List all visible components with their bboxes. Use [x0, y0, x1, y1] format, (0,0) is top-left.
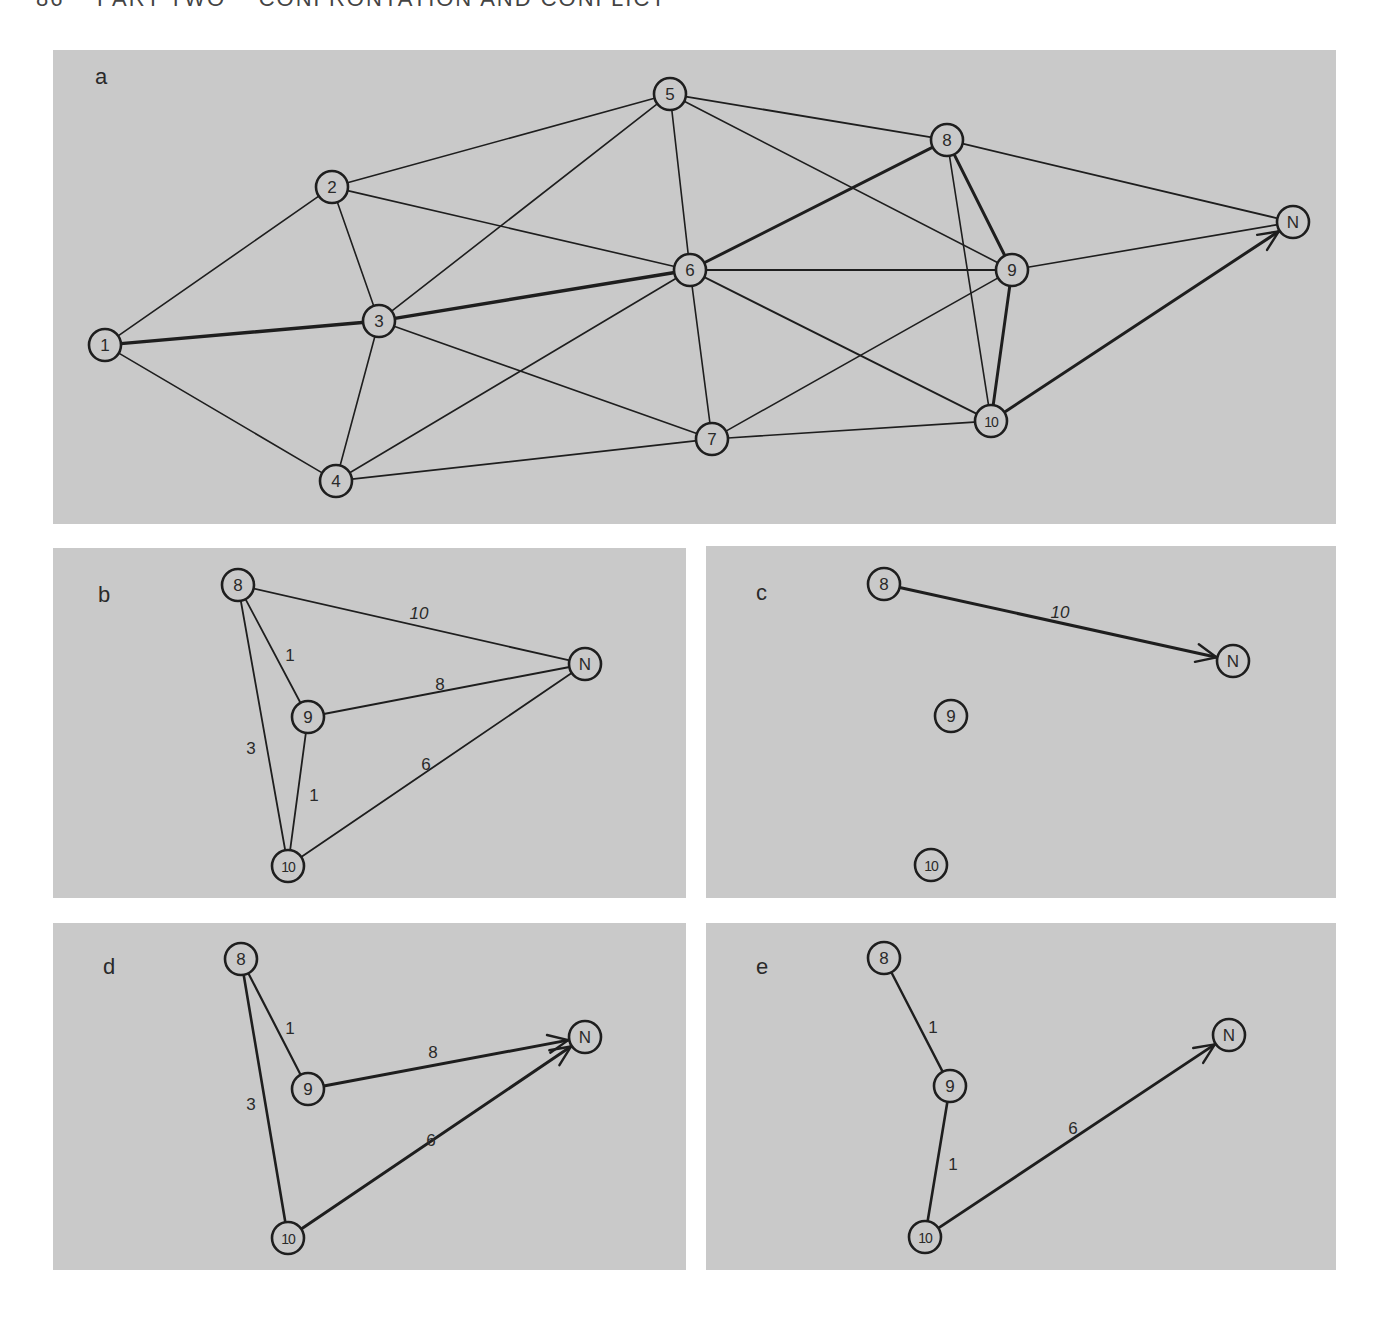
node-10: 10	[909, 1221, 941, 1253]
edge-weight-label: 8	[435, 675, 444, 694]
node-2: 2	[316, 171, 348, 203]
edge-2-6	[348, 191, 674, 267]
node-label: N	[1287, 213, 1299, 232]
panel-e-shortest-path-tree: e 1168910N	[706, 923, 1336, 1270]
node-label: 8	[879, 575, 888, 594]
node-label: N	[1227, 652, 1239, 671]
edge-9-10	[993, 286, 1009, 404]
edge-9-N	[1028, 225, 1276, 267]
edge-weight-label: 1	[309, 786, 318, 805]
node-N: N	[1277, 206, 1309, 238]
node-label: N	[579, 1028, 591, 1047]
node-8: 8	[225, 943, 257, 975]
panel-d-two-paths: d 13868910N	[53, 923, 686, 1270]
node-9: 9	[292, 1073, 324, 1105]
node-label: 8	[879, 949, 888, 968]
node-8: 8	[868, 942, 900, 974]
node-9: 9	[292, 701, 324, 733]
edge-9-10	[928, 1102, 948, 1220]
node-label: 4	[331, 472, 340, 491]
node-5: 5	[654, 78, 686, 110]
edge-5-8	[686, 97, 930, 138]
edge-6-10	[704, 277, 976, 413]
node-9: 9	[934, 1070, 966, 1102]
edge-9-N	[324, 667, 569, 714]
edge-4-6	[350, 279, 676, 473]
node-label: 2	[327, 178, 336, 197]
node-N: N	[569, 648, 601, 680]
edge-weight-label: 6	[426, 1131, 435, 1150]
node-9: 9	[935, 700, 967, 732]
edge-weight-label: 6	[421, 755, 430, 774]
network-graph-c: 108910N	[706, 546, 1336, 898]
node-8: 8	[931, 124, 963, 156]
node-6: 6	[674, 254, 706, 286]
node-1: 1	[89, 329, 121, 361]
node-label: 10	[281, 1231, 296, 1247]
edge-weight-label: 6	[1068, 1119, 1077, 1138]
node-4: 4	[320, 465, 352, 497]
node-8: 8	[222, 569, 254, 601]
edge-6-8	[704, 148, 932, 263]
edges: 116	[891, 972, 1215, 1228]
node-10: 10	[272, 1222, 304, 1254]
node-label: 9	[1007, 261, 1016, 280]
nodes: 8910N	[225, 943, 601, 1254]
edge-4-7	[352, 441, 695, 479]
edge-10-N	[301, 674, 571, 857]
edge-weight-label: 1	[948, 1155, 957, 1174]
edge-10-N	[1004, 231, 1278, 412]
node-10: 10	[975, 405, 1007, 437]
nodes: 12345678910N	[89, 78, 1309, 497]
node-7: 7	[696, 423, 728, 455]
edge-weight-label: 10	[410, 604, 429, 623]
panel-a-full-network: a 12345678910N	[53, 50, 1336, 524]
edges: 1013816	[241, 589, 571, 857]
edge-weight-label: 10	[1051, 603, 1070, 622]
node-label: 9	[303, 1080, 312, 1099]
edges	[118, 97, 1279, 480]
edge-8-N	[254, 589, 569, 661]
node-label: N	[1223, 1026, 1235, 1045]
node-label: 8	[236, 950, 245, 969]
network-graph-a: 12345678910N	[53, 50, 1336, 524]
edge-5-6	[672, 110, 688, 253]
node-label: 10	[918, 1230, 933, 1246]
edge-9-10	[290, 733, 306, 849]
nodes: 8910N	[868, 942, 1245, 1253]
edge-3-4	[340, 336, 374, 464]
node-label: 7	[707, 430, 716, 449]
edge-weight-label: 1	[285, 1019, 294, 1038]
panel-c-direct-path: c 108910N	[706, 546, 1336, 898]
node-N: N	[1217, 645, 1249, 677]
node-label: 8	[233, 576, 242, 595]
node-N: N	[1213, 1019, 1245, 1051]
edge-3-5	[392, 104, 657, 311]
edge-8-9	[954, 154, 1004, 254]
node-N: N	[569, 1021, 601, 1053]
network-graph-b: 10138168910N	[53, 548, 686, 898]
node-label: 3	[374, 312, 383, 331]
edge-1-2	[118, 197, 318, 336]
edges: 10	[900, 587, 1217, 661]
edge-8-N	[963, 144, 1277, 218]
network-graph-d: 13868910N	[53, 923, 686, 1270]
edge-7-9	[726, 278, 997, 431]
edge-weight-label: 8	[428, 1043, 437, 1062]
edge-weight-label: 1	[928, 1018, 937, 1037]
edge-7-10	[728, 422, 974, 438]
edge-9-N	[324, 1040, 569, 1086]
node-label: 6	[685, 261, 694, 280]
edges: 1386	[244, 973, 571, 1229]
node-10: 10	[915, 849, 947, 881]
edge-8-10	[241, 601, 285, 850]
node-label: 8	[942, 131, 951, 150]
edge-3-7	[394, 326, 696, 433]
page-header: 86 PART TWO CONFRONTATION AND CONFLICT	[36, 0, 736, 10]
edge-1-4	[119, 353, 322, 472]
node-label: 5	[665, 85, 674, 104]
edge-2-3	[337, 202, 373, 305]
edge-8-N	[900, 587, 1217, 657]
node-3: 3	[363, 305, 395, 337]
node-label: 10	[984, 414, 999, 430]
